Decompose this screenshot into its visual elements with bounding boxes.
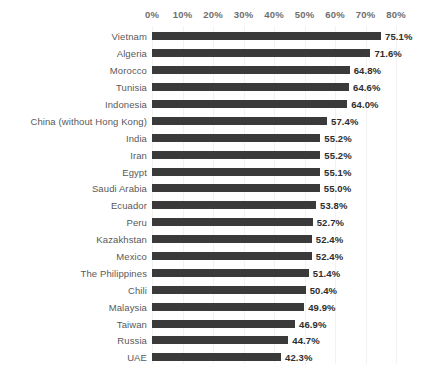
bar-track xyxy=(152,49,396,57)
bar-track xyxy=(152,32,396,40)
bar-track xyxy=(152,201,396,209)
bar-track xyxy=(152,303,396,311)
bar-row: Tunisia64.6% xyxy=(0,79,431,96)
bar-track xyxy=(152,168,396,176)
bar-category-label: India xyxy=(126,132,147,143)
bar-value-label: 52.7% xyxy=(317,217,344,228)
x-axis-tick-label: 40% xyxy=(264,9,284,20)
bar-category-label: Chili xyxy=(128,284,147,295)
bar-row: Egypt55.1% xyxy=(0,163,431,180)
x-axis-tick-label: 30% xyxy=(234,9,254,20)
bar-value-label: 44.7% xyxy=(292,335,319,346)
bar-category-label: Taiwan xyxy=(117,318,147,329)
chart-rows: Vietnam75.1%Algeria71.6%Morocco64.8%Tuni… xyxy=(0,28,431,366)
bar-category-label: Peru xyxy=(127,217,147,228)
bar-value-label: 53.8% xyxy=(320,200,347,211)
bar-row: China (without Hong Kong)57.4% xyxy=(0,112,431,129)
bar-row: Vietnam75.1% xyxy=(0,28,431,45)
bar xyxy=(152,184,320,192)
bar-row: Indonesia64.0% xyxy=(0,96,431,113)
bar-row: Algeria71.6% xyxy=(0,45,431,62)
x-axis-tick-label: 50% xyxy=(295,9,315,20)
bar-row: Malaysia49.9% xyxy=(0,298,431,315)
bar-category-label: China (without Hong Kong) xyxy=(30,115,147,126)
bar-track xyxy=(152,353,396,361)
bar-category-label: Malaysia xyxy=(109,301,147,312)
bar-category-label: Morocco xyxy=(110,65,147,76)
bar-row: Kazakhstan52.4% xyxy=(0,231,431,248)
bar-track xyxy=(152,235,396,243)
bar xyxy=(152,286,306,294)
bar-row: India55.2% xyxy=(0,129,431,146)
bar xyxy=(152,168,320,176)
bar xyxy=(152,218,313,226)
bar-row: UAE42.3% xyxy=(0,349,431,366)
x-axis-tick-label: 70% xyxy=(356,9,376,20)
bar-category-label: Saudi Arabia xyxy=(92,183,147,194)
bar-category-label: Indonesia xyxy=(105,99,147,110)
bar-row: Peru52.7% xyxy=(0,214,431,231)
x-axis-tick-label: 0% xyxy=(145,9,159,20)
bar-chart: 0%10%20%30%40%50%60%70%80% Vietnam75.1%A… xyxy=(0,0,431,371)
bar-value-label: 55.2% xyxy=(324,149,351,160)
bar-value-label: 42.3% xyxy=(285,352,312,363)
bar-value-label: 64.6% xyxy=(353,82,380,93)
bar xyxy=(152,252,312,260)
bar xyxy=(152,134,320,142)
bar-value-label: 57.4% xyxy=(331,115,358,126)
bar xyxy=(152,100,347,108)
bar xyxy=(152,353,281,361)
bar-track xyxy=(152,184,396,192)
bar-category-label: Vietnam xyxy=(112,31,147,42)
bar-value-label: 55.2% xyxy=(324,132,351,143)
bar-track xyxy=(152,286,396,294)
bar-row: Chili50.4% xyxy=(0,281,431,298)
bar xyxy=(152,303,304,311)
bar-category-label: Russia xyxy=(117,335,147,346)
bar-value-label: 51.4% xyxy=(313,267,340,278)
bar-track xyxy=(152,252,396,260)
bar xyxy=(152,32,381,40)
bar-row: Saudi Arabia55.0% xyxy=(0,180,431,197)
bar xyxy=(152,117,327,125)
bar-track xyxy=(152,269,396,277)
bar-row: Mexico52.4% xyxy=(0,248,431,265)
bar-value-label: 75.1% xyxy=(385,31,412,42)
bar xyxy=(152,83,349,91)
x-axis-tick-label: 10% xyxy=(173,9,193,20)
bar-row: Iran55.2% xyxy=(0,146,431,163)
bar xyxy=(152,151,320,159)
bar-category-label: Egypt xyxy=(122,166,147,177)
bar xyxy=(152,235,312,243)
bar-value-label: 71.6% xyxy=(374,48,401,59)
bar-track xyxy=(152,336,396,344)
bar xyxy=(152,269,309,277)
bar-row: The Philippines51.4% xyxy=(0,264,431,281)
x-axis-tick-label: 80% xyxy=(386,9,406,20)
x-axis-tick-label: 60% xyxy=(325,9,345,20)
bar xyxy=(152,49,370,57)
bar-category-label: The Philippines xyxy=(81,267,147,278)
bar xyxy=(152,66,350,74)
bar-category-label: UAE xyxy=(127,352,147,363)
bar-value-label: 64.0% xyxy=(351,99,378,110)
bar-track xyxy=(152,117,396,125)
bar-category-label: Kazakhstan xyxy=(96,234,147,245)
bar-category-label: Ecuador xyxy=(111,200,147,211)
bar-row: Morocco64.8% xyxy=(0,62,431,79)
bar-value-label: 50.4% xyxy=(310,284,337,295)
bar-track xyxy=(152,320,396,328)
bar-category-label: Tunisia xyxy=(116,82,147,93)
bar-value-label: 49.9% xyxy=(308,301,335,312)
bar-value-label: 46.9% xyxy=(299,318,326,329)
bar-value-label: 64.8% xyxy=(354,65,381,76)
bar-track xyxy=(152,151,396,159)
bar xyxy=(152,336,288,344)
bar-value-label: 52.4% xyxy=(316,251,343,262)
bar-row: Taiwan46.9% xyxy=(0,315,431,332)
bar-category-label: Iran xyxy=(130,149,147,160)
x-axis-tick-label: 20% xyxy=(203,9,223,20)
bar xyxy=(152,320,295,328)
bar-row: Ecuador53.8% xyxy=(0,197,431,214)
bar-track xyxy=(152,134,396,142)
